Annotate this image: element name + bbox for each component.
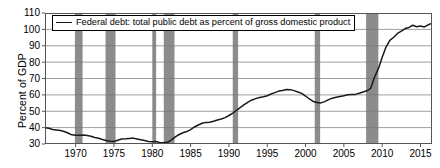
chart-legend: Federal debt: total public debt as perce… (52, 15, 355, 31)
x-tick-label: 1995 (256, 148, 279, 159)
chart-svg (45, 13, 432, 144)
y-tick-label: 80 (29, 57, 41, 68)
y-tick-label: 70 (29, 73, 41, 84)
x-tick-label: 2015 (409, 148, 432, 159)
y-axis-label: Percent of GDP (16, 18, 30, 128)
x-tick-label: 1990 (218, 148, 241, 159)
legend-line-swatch (56, 22, 72, 23)
plot-area (45, 13, 432, 144)
chart-container: Percent of GDP 30405060708090100110 1970… (0, 0, 440, 168)
x-tick-label: 1970 (65, 148, 88, 159)
legend-label: Federal debt: total public debt as perce… (76, 17, 350, 28)
x-tick-label: 1980 (141, 148, 164, 159)
y-tick-label: 30 (29, 138, 41, 149)
x-tick-label: 2010 (371, 148, 394, 159)
x-tick-label: 1975 (103, 148, 126, 159)
x-tick-label: 1985 (179, 148, 202, 159)
x-tick-label: 2005 (333, 148, 356, 159)
y-tick-label: 50 (29, 106, 41, 117)
y-tick-label: 90 (29, 40, 41, 51)
x-tick-label: 2000 (294, 148, 317, 159)
y-tick-label: 110 (24, 7, 40, 18)
x-tick-labels: 1970197519801985199019952000200520102015 (65, 148, 433, 159)
y-tick-label: 40 (29, 122, 41, 133)
y-tick-label: 60 (29, 89, 41, 100)
